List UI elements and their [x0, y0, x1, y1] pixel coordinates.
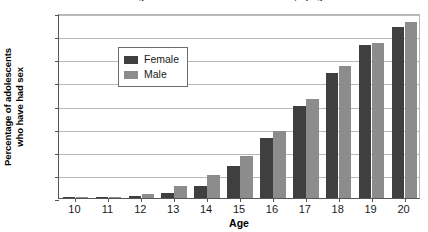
bar-group — [96, 15, 122, 198]
bar-male-age-20 — [405, 22, 418, 198]
bar-chart: Percentage of adolescents who have had s… — [0, 0, 428, 232]
legend: Female Male — [118, 47, 188, 87]
bar-group — [326, 15, 352, 198]
bar-male-age-19 — [372, 43, 385, 198]
x-tick-mark — [273, 198, 274, 202]
bar-group — [293, 15, 319, 198]
bar-female-age-15 — [227, 166, 240, 198]
bar-group — [260, 15, 286, 198]
x-tick-mark — [306, 198, 307, 202]
bar-male-age-10 — [76, 197, 89, 198]
bar-female-age-13 — [161, 193, 174, 198]
bar-male-age-12 — [142, 194, 155, 198]
x-tick-mark — [108, 198, 109, 202]
y-axis-title-line-1: Percentage of adolescents — [2, 18, 14, 196]
x-tick-mark — [141, 198, 142, 202]
x-axis-title: Age — [58, 217, 420, 229]
bar-female-age-11 — [96, 197, 109, 198]
bar-female-age-20 — [392, 27, 405, 198]
legend-item-female: Female — [124, 52, 182, 67]
bar-male-age-11 — [109, 197, 122, 198]
y-axis-title-line-2: who have had sex — [14, 18, 26, 196]
legend-swatch-male-icon — [124, 71, 138, 79]
bar-male-age-13 — [174, 186, 187, 198]
bar-female-age-14 — [194, 186, 207, 198]
bar-group — [63, 15, 89, 198]
legend-swatch-female-icon — [124, 56, 138, 64]
x-tick-mark — [174, 198, 175, 202]
x-tick-label-20: 20 — [384, 203, 424, 215]
bar-group — [194, 15, 220, 198]
x-tick-mark — [339, 198, 340, 202]
bar-series-container — [59, 15, 419, 198]
bar-female-age-16 — [260, 138, 273, 198]
bar-group — [359, 15, 385, 198]
x-tick-mark — [75, 198, 76, 202]
bar-male-age-14 — [207, 175, 220, 198]
bar-group — [227, 15, 253, 198]
chart-title: Percentage of adolescents who have had s… — [0, 0, 428, 1]
bar-female-age-19 — [359, 45, 372, 198]
bar-male-age-18 — [339, 66, 352, 198]
bar-female-age-10 — [63, 197, 76, 198]
legend-label-male: Male — [144, 69, 167, 80]
x-tick-mark — [240, 198, 241, 202]
bar-male-age-15 — [240, 156, 253, 198]
y-axis-title: Percentage of adolescents who have had s… — [2, 18, 28, 196]
bar-group — [129, 15, 155, 198]
x-tick-mark — [372, 198, 373, 202]
bar-female-age-18 — [326, 73, 339, 198]
y-tick-mark — [55, 200, 59, 201]
x-tick-mark — [405, 198, 406, 202]
plot-area — [58, 14, 420, 199]
bar-group — [392, 15, 418, 198]
bar-female-age-12 — [129, 196, 142, 198]
bar-male-age-16 — [273, 131, 286, 198]
legend-label-female: Female — [144, 54, 179, 65]
x-tick-mark — [207, 198, 208, 202]
bar-group — [161, 15, 187, 198]
bar-female-age-17 — [293, 106, 306, 199]
legend-item-male: Male — [124, 67, 182, 82]
bar-male-age-17 — [306, 99, 319, 198]
